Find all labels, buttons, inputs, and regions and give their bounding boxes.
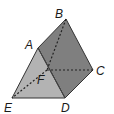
label-a: A (24, 38, 33, 52)
label-f: F (37, 73, 45, 87)
label-c: C (96, 64, 105, 78)
label-e: E (4, 101, 13, 114)
label-d: D (61, 101, 70, 114)
triangular-prism-diagram: B A C F E D (0, 0, 114, 114)
label-b: B (55, 7, 63, 21)
